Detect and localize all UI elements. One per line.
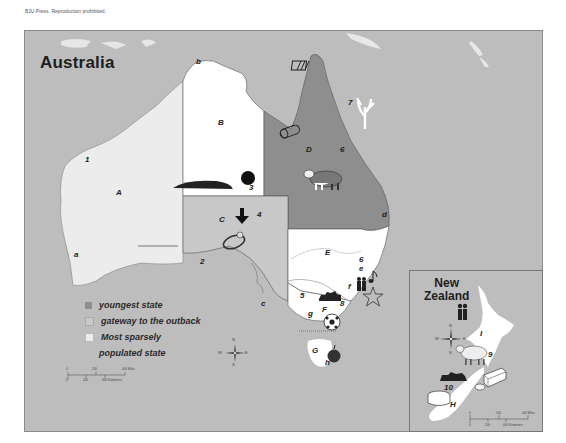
coral-icon xyxy=(357,98,374,129)
label-h-lower: h xyxy=(325,358,330,367)
legend-item-youngest: youngest state xyxy=(85,297,201,313)
nz-scale-km-200: 200 xyxy=(485,423,490,427)
compass-n: N xyxy=(232,337,235,342)
nz-compass-s: S xyxy=(449,350,452,355)
island-shape xyxy=(141,39,156,47)
scale-km-0: 0 xyxy=(66,378,68,382)
scale-miles-200: 200 xyxy=(92,367,97,371)
nz-label-9: 9 xyxy=(488,350,492,359)
number-label-1: 1 xyxy=(85,155,89,164)
label-e-lower: e xyxy=(359,264,363,273)
fence-icon xyxy=(291,61,309,70)
legend-label-cont: populated state xyxy=(99,348,166,358)
region-a-western-australia xyxy=(61,81,184,286)
scale-bar xyxy=(470,415,528,423)
scale-miles-400: 400 Miles xyxy=(122,367,135,371)
label-a-lower: a xyxy=(74,250,78,259)
label-g-lower: g xyxy=(308,309,313,318)
legend-item-sparse-cont: populated state xyxy=(85,345,201,361)
legend: youngest state gateway to the outback Mo… xyxy=(85,297,201,361)
sheep-icon xyxy=(456,346,487,366)
legend-label: gateway to the outback xyxy=(101,316,201,326)
number-label-5: 5 xyxy=(300,291,304,300)
nz-compass-e: E xyxy=(463,336,466,341)
number-label-7: 7 xyxy=(348,98,352,107)
scale-km-200: 200 xyxy=(83,378,88,382)
legend-swatch-medium xyxy=(85,317,94,326)
legend-label: Most sparsely xyxy=(101,332,161,342)
compass-w: W xyxy=(218,350,222,355)
new-zealand-inset: New Zealand I 9 10 H N S E W 0 200 400 M… xyxy=(409,270,543,432)
legend-item-gateway: gateway to the outback xyxy=(85,313,201,329)
region-label-e: E xyxy=(325,248,330,257)
number-label-3: 3 xyxy=(249,183,253,192)
nz-label-h: H xyxy=(450,400,456,409)
region-label-g: G xyxy=(312,346,318,355)
island-shape xyxy=(479,57,489,67)
scale-km-400: 400 Kilometers xyxy=(102,378,122,382)
legend-item-sparse: Most sparsely xyxy=(85,329,201,345)
compass-rose-icon xyxy=(225,344,245,362)
cheese-icon xyxy=(428,391,450,406)
nz-scale-miles-400: 400 Miles xyxy=(522,411,535,415)
label-f-lower: f xyxy=(348,282,351,291)
legend-label: youngest state xyxy=(99,300,163,310)
number-label-4: 4 xyxy=(257,210,261,219)
mountain-icon xyxy=(440,372,467,381)
island-shape xyxy=(101,41,126,49)
nz-title-line2: Zealand xyxy=(424,290,469,303)
region-label-f: F xyxy=(322,305,327,314)
number-label-6-nsw: 6 xyxy=(359,255,363,264)
label-b-lower: b xyxy=(196,57,201,66)
compass-e: E xyxy=(245,350,248,355)
number-label-6: 6 xyxy=(340,145,344,154)
nz-scale-miles-0: 0 xyxy=(469,411,471,415)
region-label-c: C xyxy=(219,215,225,224)
number-label-2: 2 xyxy=(200,257,204,266)
new-guinea-tip xyxy=(346,33,381,49)
nz-scale-miles-200: 200 xyxy=(496,411,501,415)
nz-compass-w: W xyxy=(435,336,439,341)
nz-label-10: 10 xyxy=(444,383,453,392)
region-label-d: D xyxy=(306,145,312,154)
nz-title: New Zealand xyxy=(424,277,469,303)
compass-s: S xyxy=(232,362,235,367)
island-shape xyxy=(61,39,91,48)
nz-scale-km-0: 0 xyxy=(469,423,471,427)
soccer-ball-icon xyxy=(324,314,340,330)
legend-swatch-light xyxy=(85,333,94,342)
scale-miles-0: 0 xyxy=(66,367,68,371)
region-label-b: B xyxy=(218,118,224,127)
nz-compass-n: N xyxy=(449,323,452,328)
nz-scale-km-400: 400 Kilometers xyxy=(503,423,523,427)
map-title: Australia xyxy=(40,53,115,73)
nz-label-i: I xyxy=(480,329,482,338)
label-c-lower: c xyxy=(261,299,265,308)
number-label-8: 8 xyxy=(340,299,344,308)
island-shape xyxy=(469,41,483,56)
copyright-notice: BJU Press. Reproduction prohibited. xyxy=(25,8,106,14)
legend-swatch-dark xyxy=(85,302,92,309)
region-label-a: A xyxy=(116,188,122,197)
people-icon xyxy=(458,304,467,320)
label-d-lower: d xyxy=(382,210,387,219)
